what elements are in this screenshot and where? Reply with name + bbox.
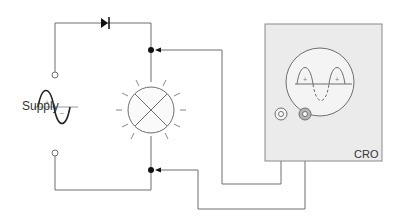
junction-top: [148, 47, 154, 53]
wire-bottom: [55, 136, 151, 190]
cro-screen: [286, 48, 354, 116]
junction-bottom: [148, 167, 154, 173]
probe-wire-1: [158, 50, 281, 184]
lamp-icon: [116, 80, 186, 139]
cro-terminal-1: [275, 108, 287, 120]
wire-top: [55, 23, 151, 82]
probe-arrow-bottom: [155, 168, 161, 173]
svg-text:–: –: [60, 109, 64, 116]
supply-label: Supply: [22, 99, 59, 113]
probe-arrow-top: [155, 48, 161, 53]
svg-text:+: +: [335, 76, 339, 83]
supply-terminal-top: [52, 72, 58, 78]
circuit-diagram: + – + +: [0, 0, 401, 222]
supply-terminal-bottom: [52, 150, 58, 156]
cro-terminal-2: [299, 108, 311, 120]
diode-icon: [101, 17, 109, 29]
cro: + +: [265, 24, 382, 161]
cro-label: CRO: [354, 148, 378, 160]
svg-text:+: +: [303, 76, 307, 83]
